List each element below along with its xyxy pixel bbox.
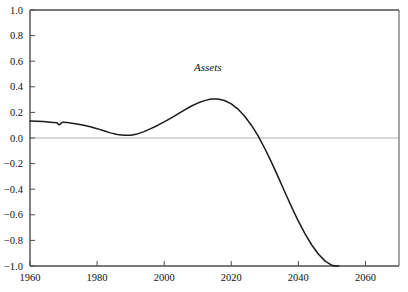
x-tick-label-3: 2020: [221, 272, 242, 283]
x-tick-label-5: 2060: [355, 272, 376, 283]
y-tick-label-0: −1.0: [4, 261, 23, 272]
chart-canvas: −1.0−0.8−0.6−0.4−0.20.00.20.40.60.81.0 1…: [0, 0, 408, 292]
y-tick-label-1: −0.8: [4, 235, 23, 246]
y-tick-label-10: 1.0: [10, 5, 23, 16]
y-tick-label-8: 0.6: [10, 56, 23, 67]
y-tick-label-3: −0.4: [4, 184, 24, 195]
chart-background: [0, 0, 408, 292]
series-annotation-assets: Assets: [193, 61, 222, 73]
x-tick-label-0: 1960: [20, 272, 41, 283]
y-tick-label-7: 0.4: [10, 81, 24, 92]
annotation-label-0: Assets: [193, 61, 222, 73]
y-tick-label-6: 0.2: [10, 107, 23, 118]
y-tick-label-4: −0.2: [4, 158, 23, 169]
x-tick-label-1: 1980: [87, 272, 108, 283]
x-tick-label-4: 2040: [288, 272, 309, 283]
y-tick-label-5: 0.0: [10, 133, 23, 144]
assets-line-chart: −1.0−0.8−0.6−0.4−0.20.00.20.40.60.81.0 1…: [0, 0, 408, 292]
y-tick-label-9: 0.8: [10, 30, 23, 41]
x-tick-label-2: 2000: [154, 272, 175, 283]
y-tick-label-2: −0.6: [4, 209, 23, 220]
